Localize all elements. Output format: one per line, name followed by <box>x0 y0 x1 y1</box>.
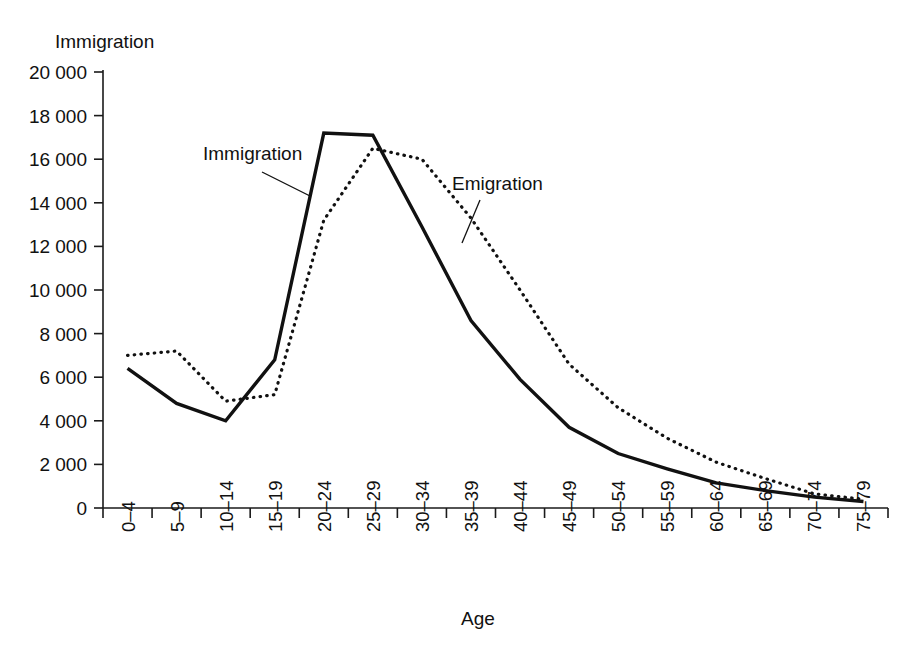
x-axis-title: Age <box>461 608 495 629</box>
y-axis-ticks: 02 0004 0006 0008 00010 00012 00014 0001… <box>29 62 103 519</box>
y-tick-label: 12 000 <box>29 236 87 257</box>
annotation-label-immigration: Immigration <box>203 143 302 164</box>
x-tick-label: 45–49 <box>559 481 580 532</box>
annotation-label-emigration: Emigration <box>452 173 543 194</box>
y-tick-label: 8 000 <box>39 324 87 345</box>
x-tick-label: 30–34 <box>412 481 433 532</box>
x-tick-label: 10–14 <box>216 481 237 532</box>
y-tick-label: 16 000 <box>29 149 87 170</box>
y-tick-label: 2 000 <box>39 454 87 475</box>
x-tick-label: 25–29 <box>363 481 384 532</box>
y-tick-label: 4 000 <box>39 411 87 432</box>
x-tick-label: 20–24 <box>314 481 335 532</box>
annotation-leader-immigration <box>262 172 310 196</box>
y-axis-title: Immigration <box>55 31 154 52</box>
x-tick-label: 5–9 <box>167 501 188 532</box>
y-tick-label: 10 000 <box>29 280 87 301</box>
x-tick-label: 35–39 <box>461 481 482 532</box>
y-tick-label: 14 000 <box>29 193 87 214</box>
x-tick-label: 55–59 <box>657 481 678 532</box>
y-tick-label: 20 000 <box>29 62 87 83</box>
y-tick-label: 0 <box>76 498 87 519</box>
x-tick-label: 0–4 <box>118 501 139 532</box>
x-tick-label: 15–19 <box>265 481 286 532</box>
y-tick-label: 6 000 <box>39 367 87 388</box>
x-tick-label: 50–54 <box>608 481 629 532</box>
x-tick-label: 75–79 <box>853 481 874 532</box>
series-line-emigration <box>128 148 864 499</box>
chart-page: Immigration 02 0004 0006 0008 00010 0001… <box>0 0 904 649</box>
x-tick-label: 70–74 <box>804 481 825 532</box>
x-tick-label: 40–44 <box>510 481 531 532</box>
immigration-emigration-line-chart: Immigration 02 0004 0006 0008 00010 0001… <box>0 0 904 649</box>
annotation-leader-emigration <box>462 200 480 243</box>
x-tick-label: 60–64 <box>706 481 727 532</box>
y-tick-label: 18 000 <box>29 106 87 127</box>
